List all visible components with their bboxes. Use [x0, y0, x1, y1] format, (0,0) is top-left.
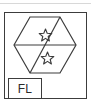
star-icon-lower — [41, 52, 54, 64]
drawing-canvas: FL — [0, 0, 91, 106]
label-box-text: FL — [18, 83, 33, 95]
hexagon-figure — [13, 16, 77, 74]
top-rule-divider — [0, 3, 91, 4]
label-box: FL — [8, 78, 42, 99]
star-icon-upper — [39, 29, 52, 41]
